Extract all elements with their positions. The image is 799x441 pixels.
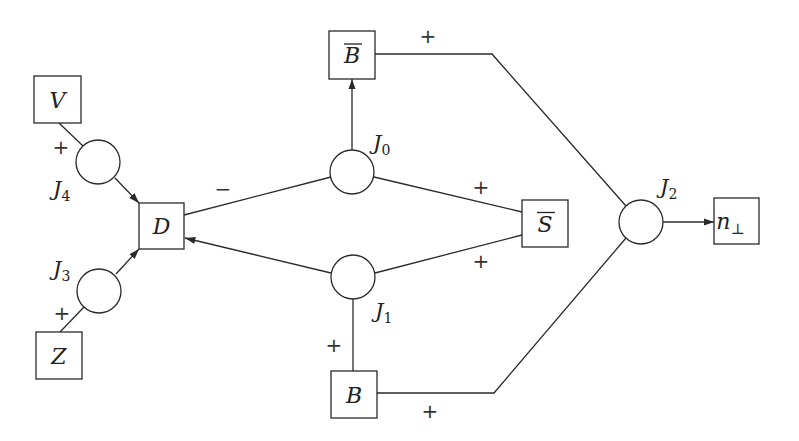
- edge-d-to-j0: [184, 177, 331, 215]
- box-label: B: [345, 383, 362, 408]
- edge-j3-to-d: [116, 249, 139, 274]
- plus-sign: +: [326, 333, 343, 357]
- plus-sign: +: [54, 301, 71, 325]
- node-box-bbar: B: [329, 31, 375, 79]
- plus-sign: +: [473, 249, 490, 273]
- box-label: V: [50, 88, 68, 113]
- signs-layer: ++−+++++: [53, 24, 490, 423]
- box-label: D: [152, 214, 171, 239]
- junction-j1: J1: [331, 255, 392, 326]
- box-label: B: [343, 43, 360, 68]
- junction-circle: [76, 140, 120, 184]
- edge-j0-to-sbar: [374, 177, 522, 212]
- edge-b-to-j2: [377, 238, 626, 393]
- junction-circle: [330, 150, 374, 194]
- node-box-b: B: [331, 371, 377, 418]
- junction-label: J4: [49, 177, 70, 204]
- node-box-z: Z: [36, 332, 82, 379]
- box-label: S: [537, 212, 552, 237]
- plus-sign: +: [473, 175, 490, 199]
- junction-label: J3: [49, 257, 70, 284]
- plus-sign: +: [422, 399, 439, 423]
- edge-bbar-to-j2: [375, 54, 626, 206]
- junction-circle: [331, 255, 375, 299]
- junction-label: J0: [369, 131, 390, 158]
- diagram-canvas: J0J1J2J3J4 VZDBBSn⊥ ++−+++++: [0, 0, 799, 441]
- signal-flow-diagram: J0J1J2J3J4 VZDBBSn⊥ ++−+++++: [0, 0, 799, 441]
- plus-sign: +: [420, 24, 437, 48]
- minus-sign: −: [215, 177, 232, 201]
- node-box-v: V: [34, 76, 81, 123]
- junction-label: J1: [371, 299, 392, 326]
- junction-j0: J0: [330, 131, 390, 194]
- junction-circle: [77, 269, 121, 313]
- edge-j1-to-d: [185, 238, 331, 273]
- edge-j1-to-sbar: [375, 235, 522, 273]
- node-box-sbar: S: [522, 200, 568, 247]
- junction-j2: J2: [619, 175, 677, 244]
- node-box-nperp: n⊥: [714, 198, 759, 244]
- box-label: Z: [50, 344, 67, 369]
- junction-label: J2: [656, 175, 677, 202]
- plus-sign: +: [53, 135, 70, 159]
- node-box-d: D: [139, 203, 184, 249]
- junction-circle: [619, 200, 663, 244]
- edge-j4-to-d: [115, 178, 139, 203]
